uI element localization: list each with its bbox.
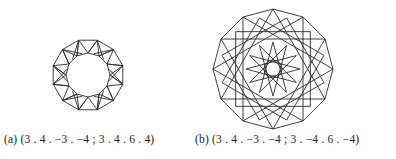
caption-b: (b) (3 . 4 . −3 . −4 ; 3 . −4 . 6 . −4) xyxy=(195,133,359,145)
tiling-figure-a-lines xyxy=(53,40,123,110)
caption-a: (a) (3 . 4 . −3 . −4 ; 3 . 4 . 6 . 4) xyxy=(4,133,154,145)
tiling-figure-b-lines xyxy=(213,9,333,129)
